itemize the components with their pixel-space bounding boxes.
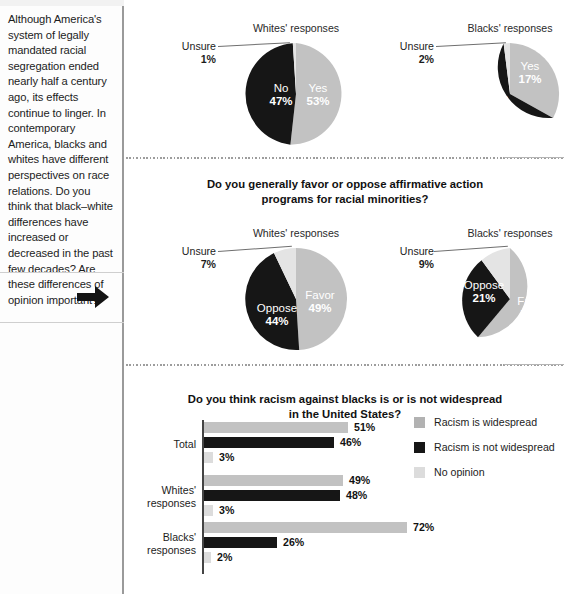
bar-total-not-widespread [204,437,334,448]
bar-blacks-not-widespread [204,537,277,548]
pie-caption-whites-1: Whites' responses [216,22,376,34]
bar-value-total-no-opinion: 3% [219,452,234,463]
pie-slice-value-favor: 70% [520,308,543,320]
bar-group-label-whites: Whites'responses [126,484,196,509]
bar-value-whites-widespread: 49% [349,475,370,486]
legend-item-not-widespread: Racism is not widespread [414,441,564,466]
unsure-text: Unsure [400,245,434,257]
panel-middle-title-line1: Do you generally favor or oppose affirma… [126,177,564,192]
bar-value-blacks-no-opinion: 2% [217,552,232,563]
pie-slice-label-oppose: Oppose [464,279,504,291]
legend-label-widespread: Racism is widespread [434,416,537,428]
pie-slice-label-no: No [274,82,289,94]
legend-swatch-not-widespread-icon [414,442,425,453]
bar-value-total-widespread: 51% [354,422,375,433]
pie-caption-whites-2: Whites' responses [216,227,376,239]
bar-chart-title-line1: Do you think racism against blacks is or… [126,392,564,407]
bar-group-label-total: Total [126,438,196,451]
unsure-text: Unsure [182,245,216,257]
bar-chart-legend: Racism is widespread Racism is not wides… [414,416,564,491]
sidebar-divider [0,272,124,273]
separator-tail [504,157,564,158]
separator-tail [504,364,564,365]
bar-value-whites-no-opinion: 3% [219,505,234,516]
cropped-top-title [126,0,564,10]
legend-item-no-opinion: No opinion [414,466,564,491]
sidebar-arrow-region[interactable] [0,278,124,322]
pie-unsure-label-2: Unsure 2% [366,40,434,66]
legend-item-widespread: Racism is widespread [414,416,564,441]
unsure-text: Unsure [182,40,216,52]
legend-swatch-widespread-icon [414,417,425,428]
pie-chart-blacks-1: Yes 17% No 81% [456,40,564,152]
unsure-value: 7% [148,258,216,271]
pie-slice-value-no: 47% [269,95,292,107]
pie-chart-whites-2: Favor 49% Oppose 44% [242,245,350,357]
bar-blacks-no-opinion [204,552,211,563]
pie-slice-value-oppose: 44% [265,315,288,327]
unsure-text: Unsure [400,40,434,52]
pie-slice-label-no: No [494,92,509,104]
pie-slice-label-favor: Favor [305,289,335,301]
bar-value-total-not-widespread: 46% [340,437,361,448]
bar-total-widespread [204,422,348,433]
bar-group-label-blacks: Blacks'responses [126,531,196,556]
bar-whites-widespread [204,475,343,486]
pie-slice-value-no: 81% [489,105,512,117]
panel-middle-title: Do you generally favor or oppose affirma… [126,177,564,206]
bar-blacks-widespread [204,522,407,533]
bar-value-whites-not-widespread: 48% [346,490,367,501]
panel-middle-title-line2: programs for racial minorities? [126,192,564,207]
bar-whites-no-opinion [204,505,213,516]
bar-value-blacks-not-widespread: 26% [283,537,304,548]
unsure-value: 2% [366,53,434,66]
sidebar-top-rule [0,0,124,6]
sidebar-bottom-rule [0,322,124,323]
panel-bar-chart: Do you think racism against blacks is or… [126,392,564,594]
bar-total-no-opinion [204,452,213,463]
charts-content: Whites' responses Blacks' responses No 4… [126,0,564,594]
right-arrow-icon[interactable] [76,284,110,314]
pie-caption-blacks-1: Blacks' responses [430,22,564,34]
legend-label-not-widespread: Racism is not widespread [434,441,555,453]
page-root: Although America's system of legally man… [0,0,564,594]
pie-unsure-label-3: Unsure 7% [148,245,216,271]
pie-slice-label-oppose: Oppose [257,302,297,314]
sidebar-prompt-text: Although America's system of legally man… [8,12,116,308]
pie-caption-blacks-2: Blacks' responses [430,227,564,239]
unsure-value: 9% [366,258,434,271]
pie-slice-value-oppose: 21% [472,292,495,304]
bar-whites-not-widespread [204,490,340,501]
pie-unsure-label-1: Unsure 1% [148,40,216,66]
pie-slice-label-yes: Yes [309,82,328,94]
legend-label-no-opinion: No opinion [434,466,485,478]
pie-chart-blacks-2: Favor 70% Oppose 21% [456,245,564,357]
pie-slice-label-yes: Yes [521,60,540,72]
pie-unsure-label-4: Unsure 9% [366,245,434,271]
panel-separator-2 [126,364,564,366]
pie-chart-whites-1: No 47% Yes 53% [242,40,350,152]
legend-swatch-no-opinion-icon [414,467,425,478]
bar-value-blacks-widespread: 72% [413,522,434,533]
pie-slice-value-yes: 17% [518,73,541,85]
pie-slice-label-favor: Favor [517,295,547,307]
panel-separator-1 [126,157,564,159]
unsure-value: 1% [148,53,216,66]
pie-slice-value-favor: 49% [308,302,331,314]
pie-slice-value-yes: 53% [306,95,329,107]
sidebar-prompt-panel: Although America's system of legally man… [0,0,124,594]
